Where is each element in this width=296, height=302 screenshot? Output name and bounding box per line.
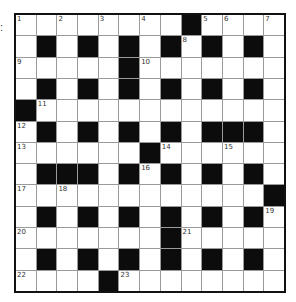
white-square[interactable] xyxy=(264,58,284,78)
white-square[interactable] xyxy=(264,79,284,99)
white-square[interactable] xyxy=(37,185,57,205)
white-square[interactable]: 19 xyxy=(264,207,284,227)
white-square[interactable] xyxy=(140,271,160,291)
white-square[interactable] xyxy=(202,58,222,78)
white-square[interactable]: 12 xyxy=(16,122,36,142)
white-square[interactable] xyxy=(161,15,181,35)
white-square[interactable]: 2 xyxy=(57,15,77,35)
white-square[interactable] xyxy=(57,58,77,78)
white-square[interactable] xyxy=(16,36,36,56)
white-square[interactable]: 20 xyxy=(16,228,36,248)
white-square[interactable] xyxy=(119,143,139,163)
white-square[interactable] xyxy=(182,271,202,291)
white-square[interactable] xyxy=(99,228,119,248)
white-square[interactable] xyxy=(78,271,98,291)
white-square[interactable] xyxy=(223,58,243,78)
white-square[interactable] xyxy=(161,185,181,205)
white-square[interactable] xyxy=(57,228,77,248)
white-square[interactable] xyxy=(202,100,222,120)
white-square[interactable] xyxy=(223,185,243,205)
white-square[interactable] xyxy=(264,36,284,56)
white-square[interactable] xyxy=(57,100,77,120)
white-square[interactable] xyxy=(57,122,77,142)
white-square[interactable] xyxy=(182,122,202,142)
white-square[interactable]: 21 xyxy=(182,228,202,248)
white-square[interactable] xyxy=(16,79,36,99)
white-square[interactable] xyxy=(57,36,77,56)
white-square[interactable] xyxy=(182,185,202,205)
white-square[interactable] xyxy=(264,122,284,142)
white-square[interactable] xyxy=(244,185,264,205)
white-square[interactable] xyxy=(78,143,98,163)
white-square[interactable] xyxy=(78,185,98,205)
white-square[interactable]: 9 xyxy=(16,58,36,78)
white-square[interactable] xyxy=(57,143,77,163)
white-square[interactable] xyxy=(244,15,264,35)
white-square[interactable] xyxy=(244,100,264,120)
white-square[interactable] xyxy=(37,15,57,35)
white-square[interactable] xyxy=(223,164,243,184)
white-square[interactable]: 4 xyxy=(140,15,160,35)
white-square[interactable] xyxy=(223,228,243,248)
white-square[interactable] xyxy=(99,36,119,56)
white-square[interactable] xyxy=(244,143,264,163)
white-square[interactable] xyxy=(223,271,243,291)
white-square[interactable] xyxy=(140,122,160,142)
white-square[interactable] xyxy=(57,271,77,291)
white-square[interactable]: 18 xyxy=(57,185,77,205)
white-square[interactable]: 22 xyxy=(16,271,36,291)
white-square[interactable] xyxy=(161,271,181,291)
white-square[interactable] xyxy=(202,228,222,248)
white-square[interactable] xyxy=(182,249,202,269)
white-square[interactable] xyxy=(202,143,222,163)
white-square[interactable] xyxy=(119,228,139,248)
white-square[interactable] xyxy=(37,58,57,78)
white-square[interactable] xyxy=(264,164,284,184)
white-square[interactable] xyxy=(244,228,264,248)
white-square[interactable] xyxy=(244,271,264,291)
white-square[interactable] xyxy=(78,228,98,248)
white-square[interactable] xyxy=(264,249,284,269)
white-square[interactable] xyxy=(161,58,181,78)
white-square[interactable] xyxy=(182,207,202,227)
white-square[interactable] xyxy=(140,228,160,248)
white-square[interactable]: 17 xyxy=(16,185,36,205)
white-square[interactable] xyxy=(99,100,119,120)
white-square[interactable]: 3 xyxy=(99,15,119,35)
white-square[interactable] xyxy=(182,143,202,163)
white-square[interactable]: 8 xyxy=(182,36,202,56)
white-square[interactable] xyxy=(202,271,222,291)
white-square[interactable] xyxy=(140,100,160,120)
white-square[interactable]: 11 xyxy=(37,100,57,120)
white-square[interactable]: 14 xyxy=(161,143,181,163)
white-square[interactable] xyxy=(140,36,160,56)
white-square[interactable] xyxy=(99,207,119,227)
white-square[interactable] xyxy=(223,36,243,56)
white-square[interactable] xyxy=(244,58,264,78)
white-square[interactable] xyxy=(161,100,181,120)
white-square[interactable] xyxy=(78,58,98,78)
white-square[interactable] xyxy=(99,79,119,99)
white-square[interactable] xyxy=(140,249,160,269)
white-square[interactable]: 16 xyxy=(140,164,160,184)
white-square[interactable] xyxy=(16,207,36,227)
white-square[interactable]: 1 xyxy=(16,15,36,35)
white-square[interactable] xyxy=(99,164,119,184)
white-square[interactable] xyxy=(57,207,77,227)
white-square[interactable] xyxy=(140,79,160,99)
white-square[interactable] xyxy=(16,249,36,269)
white-square[interactable] xyxy=(264,100,284,120)
white-square[interactable]: 6 xyxy=(223,15,243,35)
white-square[interactable] xyxy=(37,228,57,248)
white-square[interactable]: 5 xyxy=(202,15,222,35)
white-square[interactable]: 10 xyxy=(140,58,160,78)
white-square[interactable] xyxy=(182,79,202,99)
white-square[interactable] xyxy=(223,79,243,99)
white-square[interactable] xyxy=(78,100,98,120)
white-square[interactable] xyxy=(37,271,57,291)
white-square[interactable] xyxy=(264,271,284,291)
white-square[interactable] xyxy=(182,164,202,184)
white-square[interactable] xyxy=(16,164,36,184)
white-square[interactable] xyxy=(99,122,119,142)
white-square[interactable] xyxy=(99,143,119,163)
